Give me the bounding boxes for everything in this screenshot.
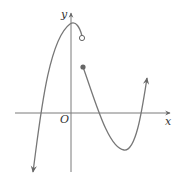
function-graph: y x O xyxy=(0,0,180,187)
origin-label: O xyxy=(60,113,69,126)
curve-right-piece xyxy=(83,67,147,150)
y-axis-label: y xyxy=(60,8,68,21)
x-axis-label: x xyxy=(165,115,172,128)
curve-left-piece xyxy=(33,23,82,172)
open-point-icon xyxy=(79,35,84,40)
filled-point-icon xyxy=(80,64,85,69)
